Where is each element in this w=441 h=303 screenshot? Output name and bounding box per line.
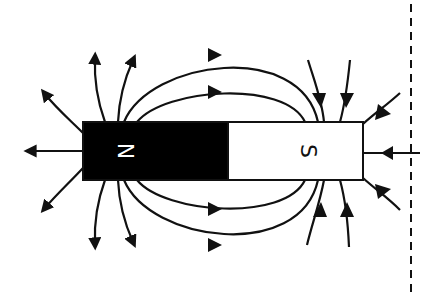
field-line-n-top-left bbox=[45, 94, 83, 133]
arrow-left-icon bbox=[381, 146, 393, 160]
bar-magnet-field-diagram bbox=[0, 0, 441, 303]
arrow-right-icon bbox=[208, 85, 222, 99]
field-line-n-top-2 bbox=[118, 60, 133, 122]
magnet-north-half bbox=[83, 122, 228, 180]
arrow-right-icon bbox=[208, 202, 222, 216]
field-line-bottom-outer bbox=[124, 180, 318, 234]
arrow-right-icon bbox=[208, 238, 222, 252]
arrow-down-icon bbox=[340, 93, 354, 108]
field-line-n-bottom-2 bbox=[118, 180, 133, 242]
arrow-up-left-icon bbox=[375, 184, 391, 199]
arrow-up-icon bbox=[340, 202, 354, 217]
field-line-n-bottom-1 bbox=[95, 180, 105, 244]
field-line-top-outer bbox=[124, 68, 318, 122]
arrow-right-icon bbox=[208, 48, 222, 62]
field-line-n-bottom-left bbox=[45, 168, 83, 208]
south-pole-label: S bbox=[297, 144, 319, 158]
arrow-up-icon bbox=[313, 202, 327, 217]
arrow-down-icon bbox=[312, 93, 326, 108]
field-line-s-top-2 bbox=[340, 60, 350, 122]
field-line-bottom-inner bbox=[137, 180, 305, 209]
field-line-top-inner bbox=[137, 93, 305, 122]
north-pole-label: N bbox=[114, 143, 136, 159]
field-line-n-top-1 bbox=[95, 58, 105, 122]
